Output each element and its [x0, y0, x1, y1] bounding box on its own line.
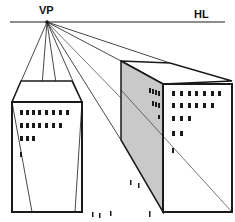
people	[92, 180, 151, 218]
right-building	[121, 61, 232, 212]
right-building-side	[121, 61, 163, 212]
left-building-roof	[12, 81, 82, 102]
vanishing-point-label: VP	[39, 4, 54, 16]
horizon-line-label: HL	[194, 8, 209, 20]
left-building	[12, 81, 82, 212]
vanishing-point-dot	[45, 20, 49, 24]
perspective-diagram	[0, 0, 235, 222]
left-building-front	[12, 102, 82, 212]
